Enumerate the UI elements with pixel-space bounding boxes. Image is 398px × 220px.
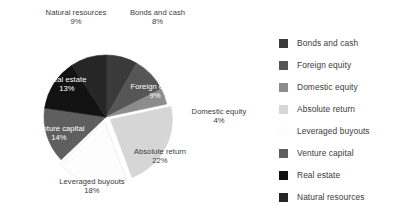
legend-item-venture-capital[interactable]: Venture capital [279,142,397,164]
legend-item-leveraged-buyouts[interactable]: Leveraged buyouts [279,120,397,142]
legend-label-absolute-return: Absolute return [297,104,355,114]
legend-swatch-natural-resources [279,193,288,202]
legend-swatch-foreign-equity [279,61,288,70]
legend-label-leveraged-buyouts: Leveraged buyouts [297,126,370,136]
legend-item-bonds-and-cash[interactable]: Bonds and cash [279,32,397,54]
legend-label-real-estate: Real estate [297,170,340,180]
legend-swatch-absolute-return [279,105,288,114]
chart-legend: Bonds and cashForeign equityDomestic equ… [279,32,397,208]
pie-chart-figure: Natural resources 9% Bonds and cash 8% F… [0,0,398,220]
legend-label-venture-capital: Venture capital [297,148,354,158]
legend-swatch-leveraged-buyouts [279,127,288,136]
legend-swatch-venture-capital [279,149,288,158]
legend-label-foreign-equity: Foreign equity [297,60,351,70]
legend-item-natural-resources[interactable]: Natural resources [279,186,397,208]
legend-item-domestic-equity[interactable]: Domestic equity [279,76,397,98]
pie-plot-area: Natural resources 9% Bonds and cash 8% F… [0,0,262,220]
legend-label-bonds-and-cash: Bonds and cash [297,38,358,48]
pie-svg [0,0,262,220]
legend-item-absolute-return[interactable]: Absolute return [279,98,397,120]
legend-item-foreign-equity[interactable]: Foreign equity [279,54,397,76]
legend-swatch-real-estate [279,171,288,180]
legend-label-domestic-equity: Domestic equity [297,82,358,92]
legend-label-natural-resources: Natural resources [297,192,364,202]
legend-swatch-bonds-and-cash [279,39,288,48]
legend-item-real-estate[interactable]: Real estate [279,164,397,186]
legend-swatch-domestic-equity [279,83,288,92]
